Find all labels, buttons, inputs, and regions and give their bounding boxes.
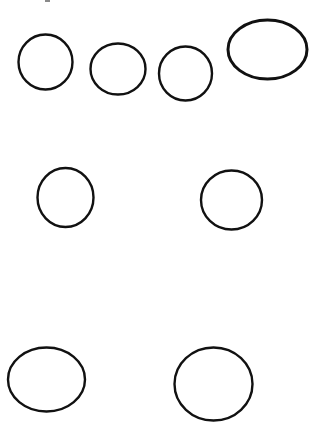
oval-5 — [38, 168, 94, 227]
stray-mark — [45, 0, 50, 2]
oval-4 — [228, 20, 307, 79]
oval-2 — [91, 44, 146, 95]
shapes-canvas — [0, 0, 318, 430]
oval-7 — [8, 348, 85, 412]
oval-6 — [201, 171, 262, 230]
oval-1 — [19, 35, 73, 90]
oval-3 — [159, 47, 212, 101]
oval-8 — [175, 348, 253, 421]
